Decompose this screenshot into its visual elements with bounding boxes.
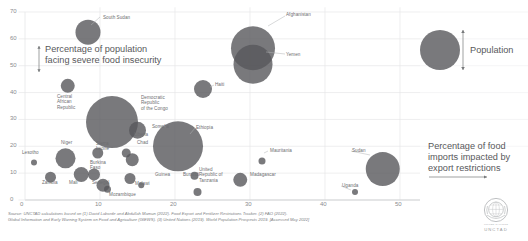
population-legend-label: Population xyxy=(470,45,513,55)
bubble-label-lesotho: Lesotho xyxy=(22,150,39,155)
y-tick-30: 30 xyxy=(10,115,17,121)
bubble-label-burundi: Burundi xyxy=(183,172,199,177)
bubble-label-south-sudan: South Sudan xyxy=(103,15,130,20)
x-tick-10: 10 xyxy=(95,201,102,207)
source-line-1: Source: UNCTAD calculations based on (1)… xyxy=(8,211,287,216)
y-tick-50: 50 xyxy=(10,62,17,68)
x-tick-30: 30 xyxy=(245,201,252,207)
bubble-label-niger: Niger xyxy=(61,140,72,145)
bubble-label-haiti: Haiti xyxy=(215,82,224,87)
y-tick-40: 40 xyxy=(10,89,17,95)
bubble-label-guinea: Guinea xyxy=(155,172,170,177)
x-tick-40: 40 xyxy=(320,201,327,207)
x-tick-50: 50 xyxy=(395,201,402,207)
bubble-label-zambia: Zambia xyxy=(42,180,58,185)
bubble-label-chad: Chad xyxy=(137,140,148,145)
x-tick-20: 20 xyxy=(170,201,177,207)
source-line-2: Global Information and Early Warning Sys… xyxy=(8,217,309,222)
bubble-chart: South SudanAfghanistanYemenHaitiCentral … xyxy=(0,0,528,241)
bubble-label-mozambique: Mozambique xyxy=(109,192,136,197)
bubble-label-malawi: Malawi xyxy=(135,181,150,186)
logo-subtitle: UNITED NATIONS xyxy=(478,223,514,226)
y-tick-10: 10 xyxy=(10,169,17,175)
unctad-logo: UNITED NATIONS UNCTAD xyxy=(478,197,514,237)
source-note: Source: UNCTAD calculations based on (1)… xyxy=(8,211,458,224)
un-emblem-icon xyxy=(483,197,509,223)
bubble-label-somalia: Somalia xyxy=(152,124,169,129)
bubble-label-liberia: Liberia xyxy=(134,132,148,137)
bubble-label-senegal: Senegal xyxy=(92,180,109,185)
x-axis-annotation: Percentage of food imports impacted by e… xyxy=(428,141,510,174)
bubble-label-ethiopia: Ethiopia xyxy=(196,125,213,130)
y-tick-0: 0 xyxy=(10,196,13,202)
y-tick-70: 70 xyxy=(10,8,17,14)
bubble-label-central-african-republic: Central African Republic xyxy=(57,94,75,110)
x-tick-0: 0 xyxy=(20,201,23,207)
plot-area xyxy=(0,0,528,241)
x-axis-annotation-text: Percentage of food imports impacted by e… xyxy=(428,141,510,174)
bubble-label-mali: Mali xyxy=(69,180,78,185)
bubble-label-burkina-faso: Burkina Faso xyxy=(90,160,106,171)
y-tick-60: 60 xyxy=(10,35,17,41)
logo-name: UNCTAD xyxy=(478,227,514,232)
y-axis-annotation: Percentage of population facing severe f… xyxy=(45,44,161,66)
bubble-label-madagascar: Madagascar xyxy=(250,172,276,177)
bubble-label-sierra-leone: Sierra Leone xyxy=(96,141,109,152)
bubble-label-democratic-republic-of-the-congo: Democratic Republic of the Congo xyxy=(141,95,168,111)
bubble-label-uganda: Uganda xyxy=(342,183,358,188)
bubble-label-yemen: Yemen xyxy=(286,52,300,57)
bubble-label-united-republic-of-tanzania: United Republic of Tanzania xyxy=(199,167,223,183)
y-tick-20: 20 xyxy=(10,142,17,148)
bubble-label-sudan: Sudan xyxy=(352,148,366,153)
bubble-label-mauritania: Mauritania xyxy=(270,148,292,153)
y-axis-annotation-text: Percentage of population facing severe f… xyxy=(45,44,161,66)
bubble-label-afghanistan: Afghanistan xyxy=(286,12,311,17)
